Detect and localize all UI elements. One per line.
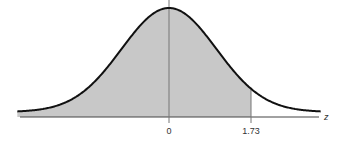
tick-label-zero: 0 [166, 126, 171, 136]
normal-curve-chart: 0 1.73 z [0, 0, 345, 147]
tick-label-1-73: 1.73 [242, 126, 260, 136]
shaded-area-left-of-1.73 [17, 8, 251, 117]
axis-label-z: z [323, 112, 329, 122]
